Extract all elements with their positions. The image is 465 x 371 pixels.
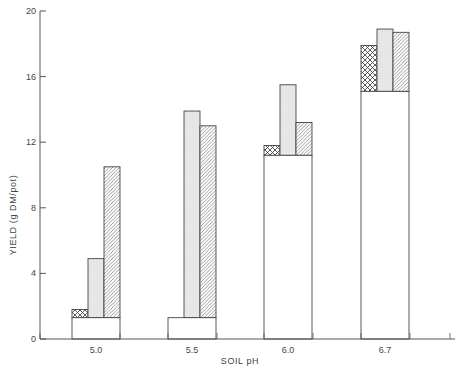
bar-base xyxy=(264,155,312,339)
x-tick-label: 6.7 xyxy=(379,345,392,355)
bar-group-ph-5.0 xyxy=(72,167,120,339)
x-tick-label: 5.5 xyxy=(186,345,199,355)
y-axis-title: YIELD (g DM/pot) xyxy=(8,175,18,256)
x-tick-label: 6.0 xyxy=(282,345,295,355)
bar-stipple xyxy=(377,29,393,91)
x-tick-label: 5.0 xyxy=(90,345,103,355)
bar-diagonal xyxy=(104,167,120,318)
bar-stipple xyxy=(280,85,296,156)
bar-base xyxy=(361,91,409,339)
bar-crosshatch xyxy=(72,309,88,317)
bar-base xyxy=(168,318,216,339)
bar-group-ph-6.0 xyxy=(264,85,312,339)
y-tick-label: 16 xyxy=(26,72,36,82)
y-tick-label: 12 xyxy=(26,137,36,147)
x-axis-title: SOIL pH xyxy=(221,356,259,366)
bar-group-ph-5.5 xyxy=(168,111,216,339)
y-tick-label: 20 xyxy=(26,6,36,16)
bar-crosshatch xyxy=(264,145,280,155)
bar-diagonal xyxy=(296,123,312,156)
bar-stipple xyxy=(88,259,104,318)
y-tick-label: 8 xyxy=(31,203,36,213)
y-tick-label: 4 xyxy=(31,268,36,278)
bar-group-ph-6.7 xyxy=(361,29,409,339)
bar-chart: 5.05.56.06.7048121620SOIL pHYIELD (g DM/… xyxy=(0,0,465,371)
bar-stipple xyxy=(184,111,200,318)
bar-crosshatch xyxy=(361,45,377,91)
y-tick-label: 0 xyxy=(31,334,36,344)
bars-group xyxy=(72,29,409,339)
bar-base xyxy=(72,318,120,339)
bar-diagonal xyxy=(200,126,216,318)
bar-diagonal xyxy=(393,32,409,91)
